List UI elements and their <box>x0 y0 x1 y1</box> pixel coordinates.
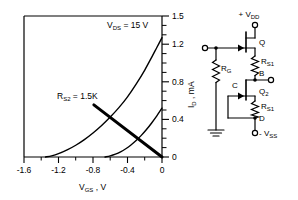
rs1-top-resistor <box>252 56 259 76</box>
x-tick-label: 0 <box>160 165 165 175</box>
y-tick-label: 0.4 <box>172 114 184 124</box>
svg-text:ID , mA: ID , mA <box>186 81 197 108</box>
rs1-bottom-resistor <box>252 101 259 118</box>
y-tick-label: 0.8 <box>172 77 184 87</box>
y-tick-label: 1.5 <box>172 11 184 21</box>
vdd-terminal-node <box>252 22 257 27</box>
annotation-rs2: RS2 = 1.5K <box>57 91 98 102</box>
label-node-d: D <box>259 114 265 123</box>
input-terminal-node <box>202 45 207 50</box>
x-axis-title: VGS , V <box>79 182 106 193</box>
output-terminal-node <box>268 77 273 82</box>
label-q1: Q <box>259 38 265 47</box>
label-node-b: B <box>259 69 264 78</box>
label-q2: Q2 <box>259 87 269 97</box>
x-tick-label: -1.2 <box>51 165 66 175</box>
vss-terminal-node <box>252 130 257 135</box>
label-rs1-bottom: RS1 <box>261 102 275 112</box>
y-axis-major-ticks <box>162 16 169 157</box>
x-tick-label: -0.4 <box>120 165 135 175</box>
figure-svg: -1.6 -1.2 -0.8 -0.4 0 VGS , V <box>0 0 298 200</box>
label-vss: - VSS <box>259 129 277 139</box>
label-node-c: C <box>232 81 238 90</box>
x-tick-labels: -1.6 -1.2 -0.8 -0.4 0 <box>17 165 165 175</box>
label-rg: RG <box>221 64 232 74</box>
annotation-vds-rest: = 15 V <box>121 20 149 30</box>
q1-gate-arrow <box>238 44 244 51</box>
annotation-vds-sub: DS <box>113 25 121 31</box>
y-axis-title: ID , mA <box>186 81 197 108</box>
figure-root: -1.6 -1.2 -0.8 -0.4 0 VGS , V <box>0 0 298 200</box>
x-tick-label: -1.6 <box>17 165 32 175</box>
svg-text:RS2 = 1.5K: RS2 = 1.5K <box>57 91 98 102</box>
annotation-vds: VDS = 15 V <box>107 20 149 31</box>
q2-gate-arrow <box>238 92 244 99</box>
annotation-rs2-rest: = 1.5K <box>70 91 98 101</box>
circuit-labels: + VDD Q RG RS1 B C Q2 RS1 D - VSS <box>221 10 277 139</box>
ground-symbol <box>208 130 224 136</box>
chart-area: -1.6 -1.2 -0.8 -0.4 0 VGS , V <box>17 11 198 193</box>
x-axis-major-ticks <box>24 157 162 163</box>
svg-text:VGS , V: VGS , V <box>79 182 106 193</box>
y-tick-label: 0 <box>172 152 177 162</box>
rg-resistor <box>213 60 220 83</box>
y-tick-label: 1.2 <box>172 39 184 49</box>
y-tick-labels: 0 0.4 0.8 1.2 1.5 <box>172 11 184 162</box>
load-line <box>94 105 162 157</box>
label-rs1-top: RS1 <box>261 57 275 67</box>
label-vdd: + VDD <box>239 10 261 20</box>
x-axis-title-sub: GS <box>85 187 94 193</box>
svg-text:VDS = 15 V: VDS = 15 V <box>107 20 149 31</box>
x-tick-label: -0.8 <box>86 165 101 175</box>
